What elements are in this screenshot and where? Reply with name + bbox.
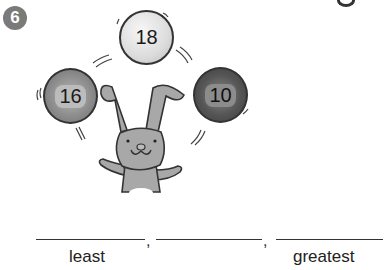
ball-16: 16 (43, 68, 98, 124)
answer-blank-middle[interactable] (156, 239, 262, 240)
label-greatest: greatest (293, 247, 354, 267)
ball-value: 10 (205, 84, 235, 107)
answer-blank-greatest[interactable] (276, 239, 383, 240)
answer-blank-least[interactable] (36, 239, 145, 240)
ball-value: 18 (131, 26, 161, 49)
separator: , (263, 232, 267, 250)
ball-10: 10 (193, 67, 248, 123)
ball-18: 18 (119, 10, 174, 65)
juggling-bunny-illustration: 18 16 10 (0, 0, 387, 210)
separator: , (146, 232, 150, 250)
ball-value: 16 (55, 85, 85, 108)
label-least: least (69, 247, 105, 267)
